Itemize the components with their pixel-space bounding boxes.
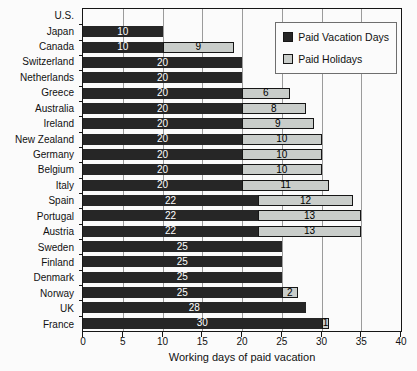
legend-item-paid-vacation: Paid Vacation Days [283,31,389,43]
bar-paid-holidays: 10 [242,149,322,160]
y-axis-tick [79,178,82,179]
bar-paid-vacation: 22 [83,195,258,206]
y-axis-labels: U.S.JapanCanadaSwitzerlandNetherlandsGre… [0,8,79,332]
x-axis-tick [122,332,123,337]
x-axis-tick [321,332,322,337]
x-tick-label: 10 [157,336,168,347]
bar-paid-holidays: 12 [258,195,353,206]
country-label: Japan [0,23,79,38]
x-tick-label: 15 [197,336,208,347]
bar-paid-holidays: 1 [322,318,330,329]
chart-row: 2010 [83,162,401,177]
y-axis-tick [79,147,82,148]
chart-row: 208 [83,101,401,116]
paid-vacation-swatch-icon [283,32,293,42]
y-axis-tick [79,208,82,209]
country-label: U.S. [0,8,79,23]
bar-paid-vacation: 20 [83,118,242,129]
chart-row: 2213 [83,224,401,239]
bar-paid-vacation: 28 [83,302,306,313]
y-axis-tick [79,40,82,41]
vacation-days-chart: U.S.JapanCanadaSwitzerlandNetherlandsGre… [0,0,417,371]
bar-paid-vacation: 30 [83,318,322,329]
paid-holidays-swatch-icon [283,54,293,64]
country-label: UK [0,301,79,316]
legend-label-paid-holidays: Paid Holidays [298,53,362,65]
country-label: Australia [0,101,79,116]
y-axis-tick [79,162,82,163]
country-label: Denmark [0,270,79,285]
bar-paid-vacation: 25 [83,272,282,283]
x-axis-tick [400,332,401,337]
chart-row: 2010 [83,132,401,147]
y-axis-tick [79,285,82,286]
country-label: Austria [0,224,79,239]
x-axis-tick [281,332,282,337]
legend-item-paid-holidays: Paid Holidays [283,53,389,65]
country-label: New Zealand [0,131,79,146]
chart-row: 2011 [83,178,401,193]
country-label: Netherlands [0,70,79,85]
country-label: Canada [0,39,79,54]
y-axis-tick [79,254,82,255]
bar-paid-vacation: 20 [83,88,242,99]
chart-row: 2010 [83,147,401,162]
y-axis-tick [79,132,82,133]
bar-paid-vacation: 22 [83,210,258,221]
country-label: Belgium [0,162,79,177]
bar-paid-vacation: 20 [83,134,242,145]
y-axis-tick [79,86,82,87]
bar-paid-vacation: 20 [83,72,242,83]
x-axis-tick [360,332,361,337]
bar-paid-holidays: 2 [282,287,298,298]
country-label: Finland [0,255,79,270]
chart-row: 301 [83,316,401,331]
bar-paid-vacation: 25 [83,241,282,252]
x-tick-label: 0 [80,336,86,347]
country-label: Sweden [0,239,79,254]
bar-paid-holidays: 9 [242,118,314,129]
y-axis-tick [79,300,82,301]
x-axis-tick [241,332,242,337]
bar-paid-vacation: 25 [83,256,282,267]
bar-paid-holidays: 6 [242,88,290,99]
country-label: Greece [0,85,79,100]
chart-row: 209 [83,116,401,131]
country-label: Switzerland [0,54,79,69]
bar-paid-holidays: 10 [242,134,322,145]
country-label: Germany [0,147,79,162]
x-axis-tick [201,332,202,337]
country-label: France [0,316,79,331]
y-axis-tick [79,24,82,25]
x-axis-tick [162,332,163,337]
x-tick-label: 5 [120,336,126,347]
bar-paid-vacation: 20 [83,103,242,114]
y-axis-tick [79,55,82,56]
chart-row: 25 [83,270,401,285]
y-axis-tick [79,224,82,225]
bar-paid-vacation: 20 [83,164,242,175]
chart-row: 2212 [83,193,401,208]
bar-paid-holidays: 8 [242,103,306,114]
x-tick-label: 35 [356,336,367,347]
y-axis-tick [79,270,82,271]
bar-paid-vacation: 20 [83,57,242,68]
x-tick-label: 40 [395,336,406,347]
x-tick-label: 30 [316,336,327,347]
chart-row: 206 [83,86,401,101]
bar-paid-holidays: 13 [258,226,361,237]
y-axis-tick [79,101,82,102]
x-axis-tick [82,332,83,337]
plot-area: 1010920202062082092010201020102011221222… [82,8,402,332]
bar-paid-vacation: 10 [83,42,163,53]
y-axis-tick [79,316,82,317]
country-label: Italy [0,178,79,193]
chart-row: 28 [83,300,401,315]
bar-paid-vacation: 20 [83,180,242,191]
country-label: Portugal [0,208,79,223]
country-label: Norway [0,286,79,301]
chart-row: 252 [83,285,401,300]
legend-label-paid-vacation: Paid Vacation Days [298,31,389,43]
legend: Paid Vacation Days Paid Holidays [275,22,397,74]
country-label: Spain [0,193,79,208]
